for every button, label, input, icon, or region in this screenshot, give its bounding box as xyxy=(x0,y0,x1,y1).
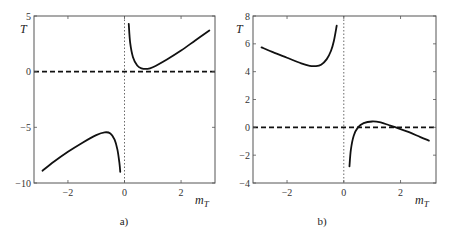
x-tick-label: −2 xyxy=(282,187,293,198)
y-tick-label: −5 xyxy=(20,122,31,133)
y-tick-label: 5 xyxy=(26,11,31,22)
panel-a-plot: −20250−5−10 xyxy=(15,11,215,199)
x-tick-label: 0 xyxy=(122,187,127,198)
y-tick-label: −4 xyxy=(239,178,250,189)
y-tick-label: −10 xyxy=(15,178,31,189)
y-tick-label: 0 xyxy=(26,66,31,77)
panel-b-ylabel: T xyxy=(236,22,244,36)
panel-a-ylabel: T xyxy=(20,22,28,36)
y-tick-label: 8 xyxy=(245,11,250,22)
y-tick-label: 6 xyxy=(245,38,250,49)
panel-b-plot: −20286420−2−4 xyxy=(239,11,436,199)
y-tick-label: 2 xyxy=(245,94,250,105)
panel-a-caption: a) xyxy=(120,215,129,228)
x-tick-label: −2 xyxy=(63,187,74,198)
curve-right-branch xyxy=(129,24,210,69)
x-tick-label: 2 xyxy=(179,187,184,198)
y-tick-label: 4 xyxy=(245,66,250,77)
y-tick-label: 0 xyxy=(245,122,250,133)
curve-right-branch xyxy=(349,121,428,166)
panel-b-xlabel: mT xyxy=(415,193,430,209)
x-tick-label: 0 xyxy=(341,187,346,198)
figure: −20250−5−10 T mT a) −20286420−2−4 T mT b… xyxy=(0,0,450,242)
y-tick-label: −2 xyxy=(239,150,250,161)
x-tick-label: 2 xyxy=(398,187,403,198)
axes-frame xyxy=(253,16,436,183)
curve-left-branch xyxy=(262,26,337,66)
curve-left-branch xyxy=(42,132,120,172)
panel-b-caption: b) xyxy=(317,215,327,228)
panel-a-xlabel: mT xyxy=(195,193,210,209)
